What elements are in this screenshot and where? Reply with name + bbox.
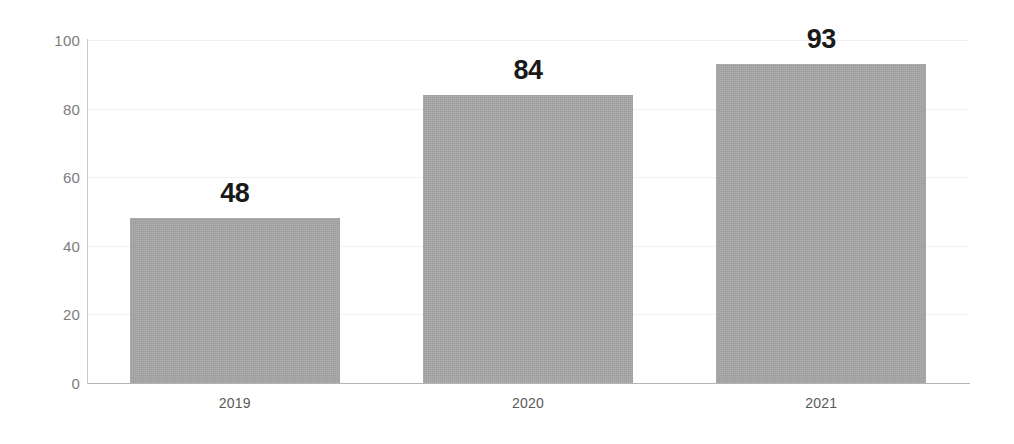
y-axis-tick-label: 0 [20, 376, 80, 391]
plot-area [88, 40, 968, 383]
y-axis-tick-label: 80 [20, 101, 80, 116]
bar[interactable] [716, 64, 926, 383]
y-axis-tick-label: 100 [20, 33, 80, 48]
bar[interactable] [423, 95, 633, 383]
bar-value-label: 84 [423, 57, 633, 84]
x-axis-tick-label: 2021 [716, 396, 926, 410]
y-axis-tick-label: 20 [20, 307, 80, 322]
bar-value-label: 93 [716, 26, 926, 53]
bar[interactable] [130, 218, 340, 383]
y-axis-tick-labels: 020406080100 [12, 40, 80, 383]
y-axis-tick-label: 40 [20, 238, 80, 253]
y-axis-tick-label: 60 [20, 170, 80, 185]
x-axis-tick-label: 2020 [423, 396, 633, 410]
bar-value-label: 48 [130, 180, 340, 207]
y-axis-line [87, 39, 88, 384]
x-axis-tick-label: 2019 [130, 396, 340, 410]
x-axis-line [88, 383, 970, 384]
bar-chart: 020406080100 488493 201920202021 [0, 0, 1014, 444]
